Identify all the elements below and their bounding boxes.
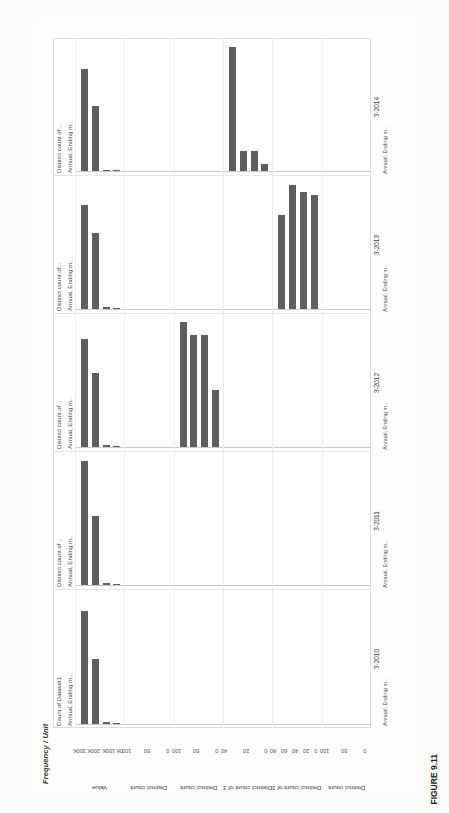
bar — [261, 164, 268, 171]
chart-panel — [75, 176, 124, 314]
chart-panel — [173, 314, 222, 452]
bar — [102, 307, 109, 309]
bar — [80, 461, 87, 585]
category-sublabel: Annual, Ending m.. — [382, 178, 388, 312]
zero-line — [125, 585, 173, 586]
chart-panel — [223, 590, 272, 728]
bar — [113, 584, 120, 585]
row-tick-group: 0K100K200K300K — [75, 746, 124, 776]
axis-tick-label: 100 — [122, 748, 131, 754]
zero-line — [224, 724, 272, 725]
chart-panel — [124, 314, 173, 452]
bar — [289, 185, 296, 309]
bar — [179, 322, 186, 447]
zero-line — [273, 585, 321, 586]
axis-tick-label: 300K — [72, 748, 85, 754]
chart-panel — [173, 38, 222, 176]
zero-line — [273, 171, 321, 172]
row-tick-group: 050100 — [321, 746, 370, 776]
chart-panel — [223, 38, 272, 176]
row-axis-title: Distinct count — [173, 778, 222, 792]
chart-panel — [272, 452, 321, 590]
row-axis-title: Distinct count of 3-2019 — [223, 778, 272, 792]
column-header-top: Distinct count of .. — [53, 314, 64, 452]
chart-panel — [75, 38, 124, 176]
axis-tick-label: 50 — [193, 748, 199, 754]
axis-tick-label: 80 — [270, 748, 276, 754]
row-tick-group: 02040 — [223, 746, 272, 776]
bar — [278, 214, 285, 308]
axis-tick-label: 20 — [302, 748, 308, 754]
axis-tick-label: 50 — [143, 748, 149, 754]
chart-panel — [321, 590, 370, 728]
bar — [113, 308, 120, 309]
chart-panel — [223, 314, 272, 452]
zero-line — [125, 171, 173, 172]
zero-line — [174, 585, 222, 586]
chart-panel — [272, 38, 321, 176]
column-header-top: Distinct count of .. — [53, 452, 64, 590]
zero-line — [322, 171, 370, 172]
chart-panel — [124, 590, 173, 728]
column-header-top: Count of Dataset1 — [53, 590, 64, 728]
figure-header-title: Frequency / Unit — [41, 723, 50, 783]
row-tick-group: 050100 — [173, 746, 222, 776]
chart-panel — [272, 590, 321, 728]
column-header-top: Distinct count of .. — [53, 176, 64, 314]
zero-line — [125, 447, 173, 448]
bar — [91, 515, 98, 584]
figure-body: Frequency / Unit Count of Dataset1Distin… — [39, 22, 411, 792]
bar — [102, 169, 109, 170]
zero-line — [125, 309, 173, 310]
zero-line — [174, 171, 222, 172]
chart-panel — [124, 38, 173, 176]
axis-tick-label: 0 — [214, 748, 217, 754]
bar — [310, 195, 317, 309]
zero-line — [224, 585, 272, 586]
column-header-sub: Annual, Ending m.. — [64, 176, 75, 314]
bar — [80, 338, 87, 446]
column-header-top: Distinct count of .. — [53, 38, 64, 176]
zero-line — [224, 447, 272, 448]
bar — [299, 192, 306, 309]
axis-tick-label: 0 — [264, 748, 267, 754]
row-axis-label-strip: Value0K100K200K300KDistinct count050100D… — [75, 728, 371, 792]
chart-panel — [75, 452, 124, 590]
bar — [113, 446, 120, 447]
category-axis: 3-2010Annual, Ending m..3-2011Annual, En… — [373, 38, 391, 728]
chart-panel — [173, 176, 222, 314]
chart-panel — [272, 314, 321, 452]
bar — [102, 722, 109, 724]
category-sublabel: Annual, Ending m.. — [382, 316, 388, 450]
chart-panel — [321, 452, 370, 590]
category-label: 3-2011 — [373, 452, 380, 590]
axis-tick-label: 100K — [101, 748, 114, 754]
bar — [91, 233, 98, 309]
axis-tick-label: 60 — [281, 748, 287, 754]
panel-matrix — [75, 38, 371, 728]
chart-panel — [321, 38, 370, 176]
zero-line — [174, 724, 222, 725]
row-axis-title: Distinct count of 3-2018 — [272, 778, 321, 792]
axis-tick-label: 100 — [319, 748, 328, 754]
chart-panel — [124, 452, 173, 590]
zero-line — [224, 309, 272, 310]
axis-tick-label: 40 — [291, 748, 297, 754]
figure-number: FIGURE 9.11 — [429, 754, 439, 805]
category-label: 3-2012 — [373, 314, 380, 452]
category-sublabel: Annual, Ending m.. — [382, 40, 388, 174]
axis-tick-label: 40 — [220, 748, 226, 754]
bar — [113, 170, 120, 171]
zero-line — [322, 447, 370, 448]
bar — [80, 205, 87, 309]
chart-panel — [124, 176, 173, 314]
category-label: 3-2010 — [373, 590, 380, 728]
chart-panel — [321, 176, 370, 314]
chart-panel — [223, 176, 272, 314]
zero-line — [322, 724, 370, 725]
chart-panel — [272, 176, 321, 314]
zero-line — [125, 724, 173, 725]
zero-line — [273, 447, 321, 448]
column-header-sub: Annual, Ending m.. — [64, 38, 75, 176]
row-axis-title: Value — [75, 778, 124, 792]
